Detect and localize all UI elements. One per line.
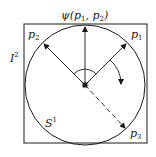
arrow-p1 [85,44,126,85]
arrow-p2 [44,44,85,85]
rotation-arrow [110,60,121,84]
label-p2: p2 [28,28,40,42]
dashed-line-p3 [85,85,125,128]
label-p1: p1 [131,28,143,42]
square-circle-diagram: ψ(p1, p2) p1 p2 p3 I2 S1 [0,0,156,157]
label-I2: I2 [9,51,19,65]
label-p3: p3 [130,127,142,141]
label-S1: S1 [45,116,57,130]
center-point [83,83,88,88]
label-psi: ψ(p1, p2) [61,9,108,23]
